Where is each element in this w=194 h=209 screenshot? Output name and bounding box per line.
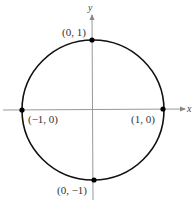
label-point-left: (−1, 0) xyxy=(28,113,58,126)
label-point-right: (1, 0) xyxy=(131,113,155,126)
point-right xyxy=(160,106,165,111)
label-point-bottom: (0, −1) xyxy=(57,184,87,197)
point-bottom xyxy=(91,177,96,182)
point-left xyxy=(19,107,24,112)
label-point-top: (0, 1) xyxy=(62,26,86,39)
x-axis-label: x xyxy=(186,103,192,114)
y-axis xyxy=(92,15,93,200)
unit-circle-diagram: y x (0, 1) (−1, 0) (1, 0) (0, −1) xyxy=(0,0,194,209)
x-axis xyxy=(3,109,185,110)
y-axis-label: y xyxy=(87,2,93,13)
point-top xyxy=(89,37,94,42)
